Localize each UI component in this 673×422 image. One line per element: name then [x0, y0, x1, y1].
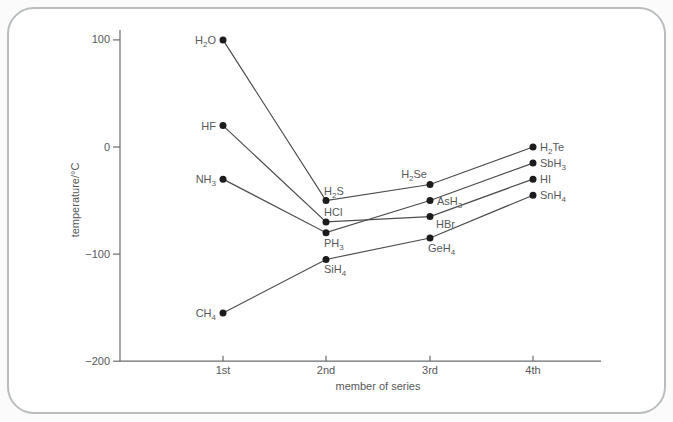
point-CH4	[220, 310, 227, 317]
x-tick-label-4th: 4th	[525, 364, 540, 376]
y-axis-title: temperature/°C	[69, 163, 81, 238]
point-H2Se	[427, 181, 434, 188]
point-label-H2Te: H2Te	[540, 141, 564, 156]
point-HBr	[427, 213, 434, 220]
point-SnH4	[530, 192, 537, 199]
series-line-1	[223, 163, 533, 233]
point-label-PH3: PH3	[324, 237, 344, 252]
point-H2O	[220, 36, 227, 43]
point-HCl	[323, 218, 330, 225]
point-label-HI: HI	[540, 173, 551, 185]
point-label-SbH3: SbH3	[540, 157, 566, 172]
point-GeH4	[427, 235, 434, 242]
point-label-GeH4: GeH4	[428, 242, 456, 257]
point-H2S	[323, 197, 330, 204]
point-NH3	[220, 176, 227, 183]
y-tick-label--100: −100	[85, 248, 110, 260]
x-axis-title: member of series	[336, 380, 421, 392]
y-tick-label-100: 100	[92, 33, 110, 45]
point-label-H2Se: H2Se	[401, 168, 427, 183]
x-tick-label-3rd: 3rd	[422, 364, 438, 376]
point-label-SnH4: SnH4	[540, 189, 566, 204]
point-label-CH4: CH4	[196, 307, 217, 322]
point-HI	[530, 176, 537, 183]
y-tick-label--200: −200	[85, 355, 110, 367]
y-tick-label-0: 0	[104, 141, 110, 153]
point-label-SiH4: SiH4	[324, 263, 347, 278]
point-SiH4	[323, 256, 330, 263]
hydride-boiling-point-chart: 1000−100−2001st2nd3rd4thtemperature/°Cme…	[0, 0, 673, 422]
point-label-HBr: HBr	[436, 218, 455, 230]
point-AsH3	[427, 197, 434, 204]
point-PH3	[323, 229, 330, 236]
point-label-H2O: H2O	[195, 34, 216, 49]
x-tick-label-2nd: 2nd	[317, 364, 335, 376]
point-label-HF: HF	[201, 120, 216, 132]
x-tick-label-1st: 1st	[216, 364, 231, 376]
point-H2Te	[530, 144, 537, 151]
point-SbH3	[530, 160, 537, 167]
series-line-0	[223, 195, 533, 313]
point-HF	[220, 122, 227, 129]
point-label-NH3: NH3	[196, 173, 217, 188]
series-line-2	[223, 40, 533, 201]
point-label-AsH3: AsH3	[437, 195, 463, 210]
point-label-HCl: HCl	[324, 206, 342, 218]
series-line-3	[223, 126, 533, 222]
